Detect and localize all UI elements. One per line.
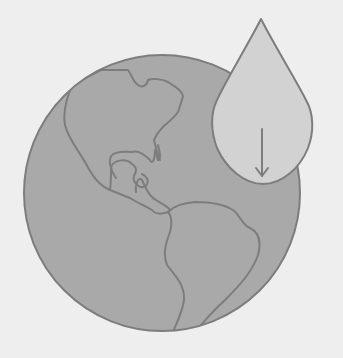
- globe-water-drop-graphic: [0, 0, 343, 358]
- illustration: [0, 0, 343, 358]
